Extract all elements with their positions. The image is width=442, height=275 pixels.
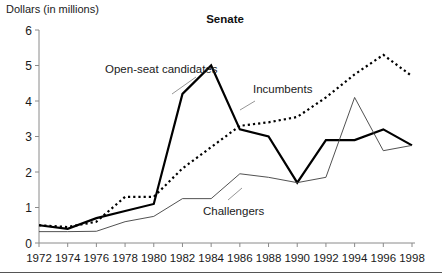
series-annotations: Open-seat candidatesIncumbentsChallenger…	[105, 63, 313, 217]
annotation-leader-line	[228, 188, 242, 200]
x-axis-tick-label: 1986	[227, 252, 253, 264]
y-axis-tick-label: 5	[25, 59, 32, 73]
chart-canvas: Dollars (in millions) Senate 0123456 197…	[0, 0, 442, 275]
x-axis: 1972197419761978198019821984198619881990…	[26, 243, 425, 264]
x-axis-tick-label: 1974	[55, 252, 81, 264]
y-axis-tick-label: 1	[25, 201, 32, 215]
chart-title: Senate	[206, 13, 244, 25]
x-axis-tick-label: 1988	[256, 252, 282, 264]
x-axis-tick-label: 1990	[284, 252, 310, 264]
y-axis-tick-label: 2	[25, 166, 32, 180]
series-line-incumbents	[39, 55, 412, 227]
annotation-leader-line	[240, 101, 255, 110]
y-axis-tick-label: 3	[25, 130, 32, 144]
x-axis-tick-label: 1978	[112, 252, 138, 264]
x-axis-tick-label: 1996	[371, 252, 397, 264]
series-label-open-seat-candidates: Open-seat candidates	[105, 63, 218, 75]
senate-campaign-spending-chart: Dollars (in millions) Senate 0123456 197…	[0, 0, 442, 275]
y-axis-tick-label: 6	[25, 24, 32, 38]
y-axis-tick-label: 0	[25, 237, 32, 251]
series-label-incumbents: Incumbents	[253, 83, 313, 95]
x-axis-tick-label: 1976	[84, 252, 110, 264]
series-label-challengers: Challengers	[203, 205, 265, 217]
x-axis-tick-label: 1980	[141, 252, 167, 264]
y-axis-tick-label: 4	[25, 95, 32, 109]
y-axis: 0123456	[25, 24, 39, 251]
x-axis-tick-label: 1998	[399, 252, 425, 264]
x-axis-tick-label: 1994	[342, 252, 368, 264]
y-axis-title: Dollars (in millions)	[6, 3, 99, 15]
x-axis-tick-label: 1992	[313, 252, 339, 264]
x-axis-tick-label: 1984	[198, 252, 224, 264]
x-axis-tick-label: 1972	[26, 252, 52, 264]
x-axis-tick-label: 1982	[170, 252, 196, 264]
